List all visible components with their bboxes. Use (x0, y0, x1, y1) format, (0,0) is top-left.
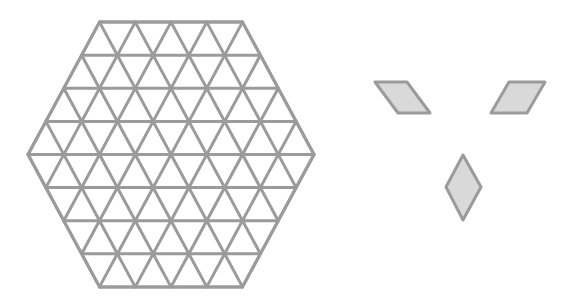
rhombus-bottom (446, 155, 481, 220)
grid-diagonal-line (207, 22, 296, 188)
grid-diagonal-line (46, 22, 135, 188)
rhombus-pieces (375, 82, 545, 220)
diagram-canvas (0, 0, 574, 305)
rhombus-left (375, 82, 430, 113)
grid-diagonal-line (82, 55, 207, 287)
grid-diagonal-line (135, 55, 260, 287)
hexagon-triangle-grid (28, 22, 314, 287)
grid-diagonal-line (82, 22, 207, 254)
rhombus-right (491, 82, 545, 113)
grid-diagonal-line (207, 121, 296, 287)
grid-diagonal-line (46, 121, 135, 287)
grid-diagonal-line (135, 22, 260, 254)
